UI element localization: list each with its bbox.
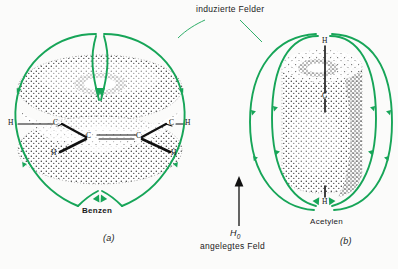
acetylene-molecule-label: Acetylen xyxy=(310,217,343,226)
atom-label: H xyxy=(8,118,13,127)
atom-label: H xyxy=(322,197,327,206)
figure-canvas xyxy=(0,0,398,269)
applied-field-subscript: 0 xyxy=(237,233,241,240)
atom-label: C xyxy=(53,118,58,127)
panel-a-label: (a) xyxy=(103,233,115,243)
applied-field-symbol-text: H xyxy=(230,228,237,238)
applied-field-arrow xyxy=(235,176,244,226)
atom-label: C xyxy=(322,91,327,100)
panel-b-label: (b) xyxy=(340,236,352,246)
applied-field-caption: angelegtes Feld xyxy=(200,241,265,251)
atom-label: H xyxy=(51,148,56,157)
applied-field-symbol: H0 xyxy=(230,228,241,240)
atom-label: H xyxy=(322,36,327,45)
nmr-induced-field-figure: induzierte Felder Benzen (a) Acetylen (b… xyxy=(0,0,398,269)
benzene-electron-cloud xyxy=(18,55,182,184)
atom-label: C xyxy=(136,131,141,140)
acetylene-electron-cloud xyxy=(282,50,362,197)
induzierte-felder-label: induzierte Felder xyxy=(196,4,264,14)
atom-label: C xyxy=(86,131,91,140)
induzierte-felder-leader-lines xyxy=(178,20,262,42)
atom-label: C xyxy=(169,118,174,127)
atom-label: H xyxy=(171,148,176,157)
benzene-molecule-label: Benzen xyxy=(82,206,112,215)
atom-label: H xyxy=(185,118,190,127)
